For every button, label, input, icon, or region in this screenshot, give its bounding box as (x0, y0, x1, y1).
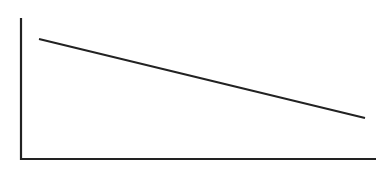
trend-line (39, 39, 365, 118)
line-chart (0, 0, 390, 169)
